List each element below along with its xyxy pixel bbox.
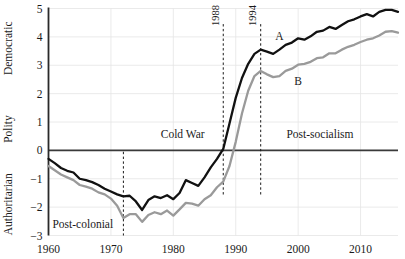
y-tick-2: 2 [37,88,43,100]
chart-canvas: 543210−1−2−3 196019701980199020002010 Po… [0,0,405,259]
x-tick-2010: 2010 [349,243,372,255]
event-label-1994: 1994 [247,4,258,26]
y-tick-0: 0 [37,144,43,156]
era-label-post-colonial: Post-colonial [52,218,113,230]
x-tick-1960: 1960 [37,243,60,255]
series-label-B: B [294,75,302,87]
polity-trend-chart: 543210−1−2−3 196019701980199020002010 Po… [0,0,405,259]
era-label-cold-war: Cold War [161,128,205,140]
x-tick-1970: 1970 [99,243,122,255]
y-tick-1: 1 [37,116,43,128]
y-tick--3: −3 [30,230,42,242]
event-label-1988: 1988 [210,5,221,26]
y-tick-5: 5 [37,3,43,15]
x-axis-tick-labels: 196019701980199020002010 [37,243,372,255]
y-axis-title-democratic: Democratic [2,21,14,75]
y-axis-title-polity: Polity [2,115,15,143]
y-axis-title-authoritarian: Authoritarian [2,173,14,235]
series-label-A: A [275,30,284,42]
x-tick-1980: 1980 [162,243,185,255]
x-tick-1990: 1990 [224,243,247,255]
y-axis-tick-labels: 543210−1−2−3 [30,3,43,242]
y-tick-4: 4 [37,31,43,43]
y-tick-3: 3 [37,59,43,71]
y-axis-titles: DemocraticPolityAuthoritarian [2,21,15,235]
x-tick-2000: 2000 [287,243,310,255]
y-tick--1: −1 [30,173,42,185]
event-marker-labels: 19881994 [210,4,258,26]
era-label-post-socialism: Post-socialism [286,128,353,140]
y-tick--2: −2 [30,201,42,213]
